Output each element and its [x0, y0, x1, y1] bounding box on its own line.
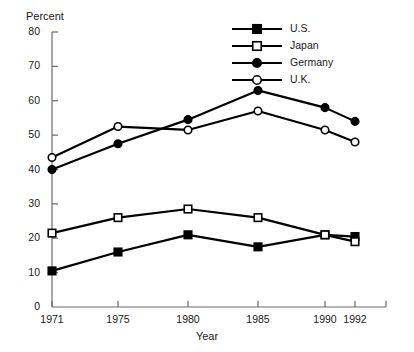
y-tick-label: 10 [14, 266, 40, 278]
data-point-japan [351, 238, 359, 246]
series-markers [48, 87, 359, 275]
data-point-japan [254, 214, 262, 222]
y-tick-label: 60 [14, 94, 40, 106]
data-point-uk [114, 123, 122, 131]
legend-marker-us [253, 25, 262, 34]
y-tick-label: 30 [14, 197, 40, 209]
data-point-japan [321, 231, 329, 239]
data-point-japan [114, 214, 122, 222]
data-point-uk [254, 107, 262, 115]
data-point-japan [184, 205, 192, 213]
y-tick-label: 0 [14, 300, 40, 312]
legend-marker-uk [253, 76, 262, 85]
legend-marker-japan [253, 42, 262, 51]
series-line-germany [52, 90, 355, 169]
data-point-germany [114, 140, 122, 148]
data-point-uk [321, 126, 329, 134]
data-point-uk [184, 126, 192, 134]
y-tick-label: 20 [14, 231, 40, 243]
x-axis-title: Year [0, 330, 414, 342]
x-tick-label: 1980 [168, 313, 208, 325]
data-point-germany [254, 87, 262, 95]
data-point-germany [184, 116, 192, 124]
data-point-us [254, 243, 262, 251]
plot-area [0, 0, 414, 352]
x-tick-label: 1975 [98, 313, 138, 325]
data-point-uk [48, 154, 56, 162]
data-point-us [184, 231, 192, 239]
y-tick-label: 80 [14, 25, 40, 37]
legend [232, 25, 282, 85]
y-tick-label: 50 [14, 128, 40, 140]
legend-marker-germany [253, 59, 262, 68]
data-point-us [48, 267, 56, 275]
axes [52, 32, 386, 307]
line-chart: Percent Year 010203040506070801971197519… [0, 0, 414, 352]
data-point-uk [351, 138, 359, 146]
legend-label-japan: Japan [290, 39, 319, 51]
legend-label-germany: Germany [290, 56, 333, 68]
series-line-uk [52, 111, 355, 157]
x-tick-label: 1985 [238, 313, 278, 325]
data-point-germany [321, 104, 329, 112]
data-point-germany [48, 166, 56, 174]
data-point-us [114, 248, 122, 256]
y-tick-label: 70 [14, 59, 40, 71]
series-line-us [52, 235, 355, 271]
legend-label-us: U.S. [290, 22, 310, 34]
legend-label-uk: U.K. [290, 73, 310, 85]
x-tick-label: 1971 [32, 313, 72, 325]
x-tick-label: 1992 [335, 313, 375, 325]
data-point-germany [351, 118, 359, 126]
series-lines [52, 90, 355, 270]
data-point-japan [48, 229, 56, 237]
y-tick-label: 40 [14, 163, 40, 175]
